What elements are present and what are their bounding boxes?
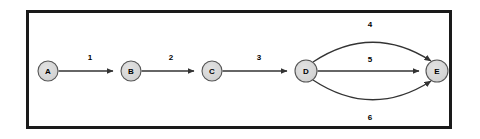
node-a-label: A [45,67,51,76]
node-a[interactable]: A [38,61,58,81]
edge-weight-4: 4 [368,20,373,29]
diagram-canvas: 1 2 3 4 5 6 A B C D [0,0,480,139]
node-e-label: E [434,67,440,76]
edge-weight-5: 5 [368,55,373,64]
node-d-label: D [303,67,309,76]
edge-weight-6: 6 [368,113,373,122]
edge-weight-1: 1 [88,53,93,62]
node-d[interactable]: D [295,60,317,82]
edge-weight-2: 2 [169,53,174,62]
edge-group [59,42,432,100]
node-b-label: B [128,67,134,76]
node-c[interactable]: C [202,61,222,81]
node-b[interactable]: B [121,61,141,81]
node-e[interactable]: E [426,60,448,82]
node-c-label: C [209,67,215,76]
edge-d-e-lower [313,80,431,100]
edge-weight-3: 3 [257,53,262,62]
directed-graph: 1 2 3 4 5 6 A B C D [0,0,480,139]
